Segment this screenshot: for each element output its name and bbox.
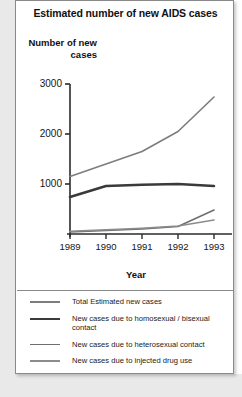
page-left-gutter	[0, 0, 15, 397]
legend-item: Total Estimated new cases	[30, 297, 226, 307]
legend-item: New cases due to homosexual / bisexual c…	[30, 314, 226, 333]
page-bottom-gutter	[0, 374, 242, 397]
legend-divider	[17, 290, 234, 291]
legend-item-label: New cases due to injected drug use	[72, 356, 226, 366]
chart-figure: Estimated number of new AIDS cases Numbe…	[15, 0, 234, 374]
legend-item: New cases due to heterosexual contact	[30, 340, 226, 350]
legend-swatch-icon	[30, 340, 72, 346]
y-tick-label: 2000	[18, 129, 62, 139]
legend-swatch-icon	[30, 356, 72, 362]
legend-swatch-icon	[30, 297, 72, 303]
x-tick-label: 1991	[125, 242, 159, 252]
x-tick-label: 1989	[53, 242, 87, 252]
legend-swatch-icon	[30, 314, 72, 321]
legend-item-label: New cases due to homosexual / bisexual c…	[72, 314, 226, 333]
legend-item: New cases due to injected drug use	[30, 356, 226, 366]
x-tick-label: 1993	[197, 242, 231, 252]
y-tick-label: 1000	[18, 179, 62, 189]
legend-item-label: Total Estimated new cases	[72, 297, 226, 307]
y-tick-label: 3000	[18, 79, 62, 89]
chart-legend: Total Estimated new cases New cases due …	[30, 297, 226, 373]
x-tick-label: 1992	[161, 242, 195, 252]
x-axis-title: Year	[56, 269, 216, 280]
x-tick-label: 1990	[89, 242, 123, 252]
plot-area: 30002000100019891990199119921993	[16, 1, 235, 261]
legend-item-label: New cases due to heterosexual contact	[72, 340, 226, 350]
